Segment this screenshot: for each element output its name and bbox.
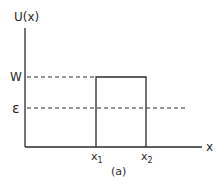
energy-level-label: ε	[12, 100, 20, 116]
potential-barrier-diagram: U(x) x W ε x1 x2 (a)	[0, 0, 224, 189]
x1-tick-label: x1	[91, 150, 103, 165]
x2-tick-label: x2	[141, 150, 153, 165]
potential-barrier	[96, 77, 146, 147]
x-axis-label: x	[206, 140, 213, 154]
y-axis-label: U(x)	[14, 10, 39, 24]
figure-caption: (a)	[111, 165, 126, 178]
w-level-label: W	[10, 70, 22, 84]
